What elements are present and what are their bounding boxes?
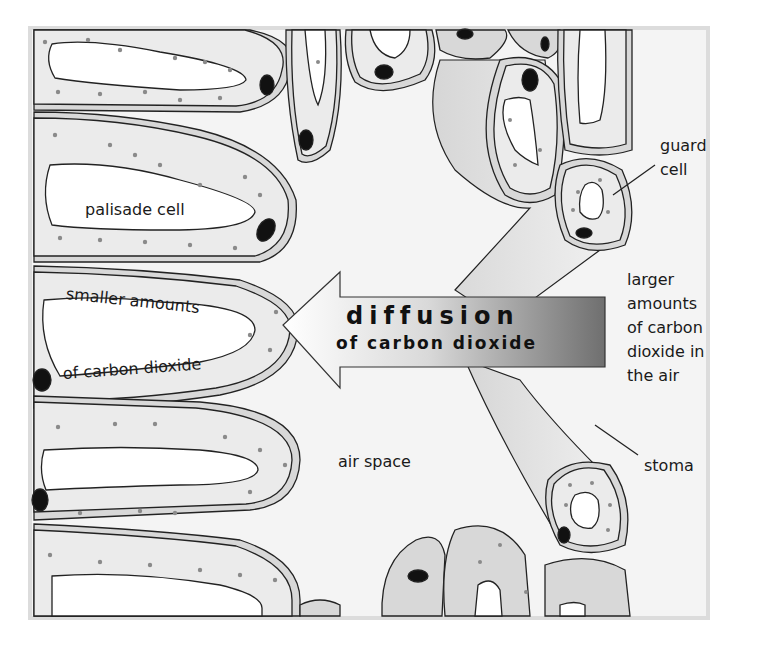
larger-amounts-label-1: larger [627,268,674,292]
guard-cell-label-1: guard [660,134,707,158]
palisade-cell-4 [32,396,300,520]
palisade-cell-1 [34,30,292,112]
larger-amounts-label-4: dioxide in [627,340,704,364]
larger-amounts-label-2: amounts [627,292,697,316]
stoma-label: stoma [644,454,694,478]
guard-cell-label-2: cell [660,158,688,182]
larger-amounts-label-3: of carbon [627,316,703,340]
larger-amounts-label-5: the air [627,364,679,388]
air-space-label: air space [338,450,411,474]
arrow-subtitle: of carbon dioxide [336,333,537,353]
arrow-title: diffusion [346,302,519,330]
palisade-cell-label: palisade cell [85,198,185,222]
